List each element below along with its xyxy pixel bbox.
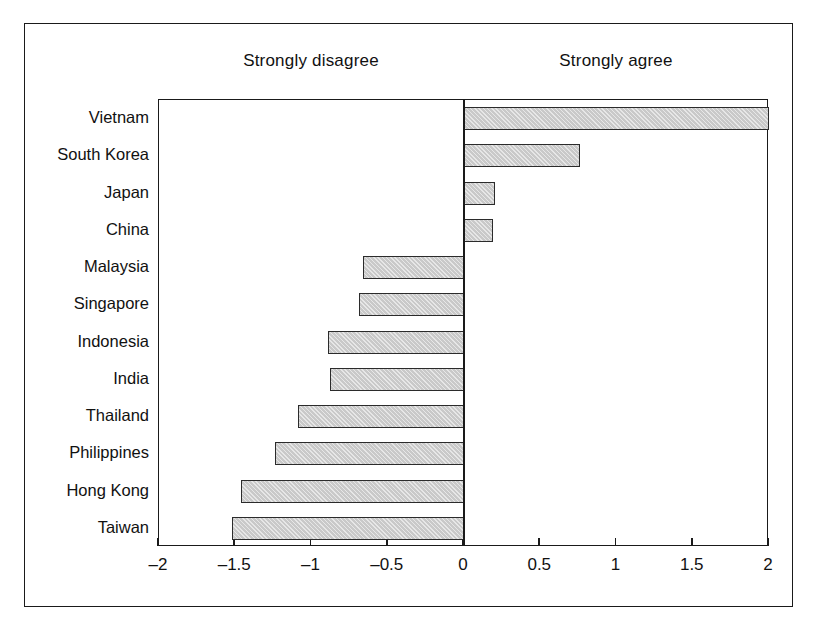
bar bbox=[363, 256, 464, 279]
y-axis-label: Hong Kong bbox=[9, 472, 149, 509]
x-axis-tick-mark bbox=[538, 538, 540, 546]
x-axis-tick-mark bbox=[767, 538, 769, 546]
bar bbox=[328, 331, 464, 354]
y-axis-label: Philippines bbox=[9, 434, 149, 471]
y-axis-label: Malaysia bbox=[9, 248, 149, 285]
plot-area bbox=[158, 99, 768, 546]
bar bbox=[359, 293, 464, 316]
bar bbox=[241, 480, 464, 503]
x-axis-tick-label: 0.5 bbox=[527, 555, 551, 575]
y-axis-label: Japan bbox=[9, 174, 149, 211]
zero-baseline bbox=[463, 100, 465, 545]
x-axis-tick-label: 2 bbox=[763, 555, 772, 575]
bar bbox=[464, 219, 493, 242]
y-axis-label: Singapore bbox=[9, 285, 149, 322]
bar bbox=[330, 368, 464, 391]
figure-frame: Strongly disagree Strongly agree Vietnam… bbox=[24, 23, 793, 607]
y-axis-label: Taiwan bbox=[9, 509, 149, 546]
y-axis-label: South Korea bbox=[9, 136, 149, 173]
bar bbox=[464, 144, 580, 167]
x-axis-tick-label: –1.5 bbox=[218, 555, 251, 575]
plot-inner bbox=[159, 100, 767, 545]
caption-strongly-agree: Strongly agree bbox=[491, 51, 741, 71]
x-axis-tick-label: 1 bbox=[611, 555, 620, 575]
x-axis-tick-mark bbox=[615, 538, 617, 546]
bar bbox=[298, 405, 464, 428]
bar bbox=[275, 442, 464, 465]
x-axis-tick-label: 0 bbox=[458, 555, 467, 575]
caption-strongly-disagree: Strongly disagree bbox=[186, 51, 436, 71]
y-axis-label: China bbox=[9, 211, 149, 248]
x-axis-tick-label: –1 bbox=[301, 555, 320, 575]
y-axis-label: Thailand bbox=[9, 397, 149, 434]
bar bbox=[464, 182, 495, 205]
x-axis-tick-label: –0.5 bbox=[370, 555, 403, 575]
bar bbox=[232, 517, 464, 540]
y-axis-label: Indonesia bbox=[9, 323, 149, 360]
x-axis-tick-mark bbox=[691, 538, 693, 546]
bar bbox=[464, 107, 769, 130]
x-axis-tick-mark bbox=[157, 538, 159, 546]
y-axis-label: Vietnam bbox=[9, 99, 149, 136]
x-axis-tick-label: 1.5 bbox=[680, 555, 704, 575]
y-axis-label: India bbox=[9, 360, 149, 397]
x-axis-tick-label: –2 bbox=[149, 555, 168, 575]
y-axis-labels: VietnamSouth KoreaJapanChinaMalaysiaSing… bbox=[9, 99, 149, 546]
